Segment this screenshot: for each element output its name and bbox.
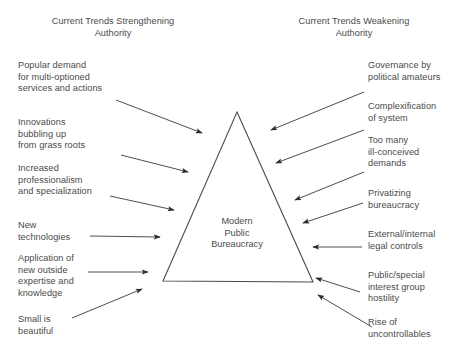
arrow-group-right xyxy=(271,92,372,327)
strengthening-label-3: New technologies xyxy=(18,220,136,243)
weakening-label-1: Complexification of system xyxy=(368,101,468,124)
weakening-label-0: Governance by political amateurs xyxy=(368,60,468,83)
strengthening-label-0: Popular demand for multi-optioned servic… xyxy=(18,60,136,95)
weakening-label-5: Public/special interest group hostility xyxy=(368,270,468,305)
arrow-complexification xyxy=(276,130,364,163)
weakening-label-2: Too many ill-conceived demands xyxy=(368,135,468,170)
weakening-label-6: Rise of uncontrollables xyxy=(368,317,468,340)
strengthening-label-4: Application of new outside expertise and… xyxy=(18,253,136,300)
triangle-modern-public-bureaucracy xyxy=(163,112,313,282)
arrow-too-many-demands xyxy=(295,172,364,200)
bureaucracy-diagram: Current Trends Strengthening Authority C… xyxy=(0,0,468,354)
triangle-center-label: Modern Public Bureaucracy xyxy=(197,216,277,251)
arrow-rise-uncontrollables xyxy=(318,295,372,327)
strengthening-label-2: Increased professionalism and specializa… xyxy=(18,163,136,198)
strengthening-label-1: Innovations bubbling up from grass roots xyxy=(18,117,136,152)
arrow-privatizing xyxy=(303,203,363,223)
strengthening-label-5: Small is beautiful xyxy=(18,314,136,337)
weakening-label-3: Privatizing bureaucracy xyxy=(368,188,468,211)
arrow-governance xyxy=(271,92,364,130)
weakening-label-4: External/internal legal controls xyxy=(368,229,468,252)
arrow-public-special xyxy=(316,278,360,292)
